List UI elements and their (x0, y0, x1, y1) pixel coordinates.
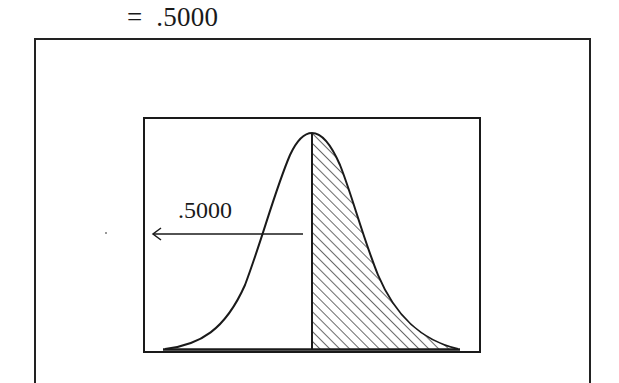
area-label: .5000 (178, 197, 232, 223)
left-arrow-icon (153, 228, 303, 240)
